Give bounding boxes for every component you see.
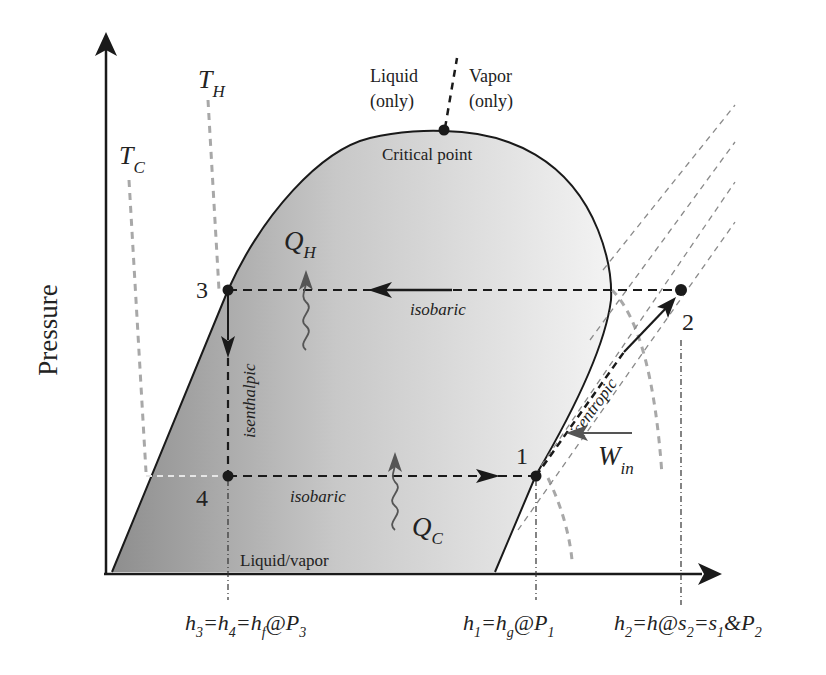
isotherm-th xyxy=(208,100,219,290)
refrigeration-ph-diagram: Pressure 3 4 1 2 Liquid (only) Vapor (on… xyxy=(0,0,826,675)
state-point-2 xyxy=(675,284,687,296)
state-label-4: 4 xyxy=(196,485,208,511)
state-label-1: 1 xyxy=(516,443,528,469)
h1-label: h1=hg@P1 xyxy=(463,610,555,640)
state-label-3: 3 xyxy=(196,277,208,303)
tc-label: TC xyxy=(119,141,145,177)
saturation-dome xyxy=(112,131,611,572)
isentrope-1 xyxy=(603,105,735,270)
vapor-only-label-1: Vapor xyxy=(469,66,512,86)
liquid-only-label-1: Liquid xyxy=(370,66,418,86)
critical-point xyxy=(439,125,450,136)
state-point-3 xyxy=(223,285,234,296)
y-axis-label: Pressure xyxy=(33,284,63,375)
liquid-vapor-label: Liquid/vapor xyxy=(240,551,329,570)
state-point-1 xyxy=(531,471,542,482)
state-point-4 xyxy=(223,471,234,482)
vapor-only-label-2: (only) xyxy=(469,91,513,112)
state-label-2: 2 xyxy=(682,309,694,335)
process-1-2-solid xyxy=(624,306,668,352)
isobaric-label-bottom: isobaric xyxy=(290,487,346,506)
win-label: Win xyxy=(598,441,634,478)
isobaric-label-top: isobaric xyxy=(410,300,466,319)
th-label: TH xyxy=(198,65,226,101)
liquid-only-label-2: (only) xyxy=(370,91,414,112)
isotherm-tc xyxy=(129,180,146,472)
isotherm-tc-superheated xyxy=(548,478,572,560)
liquid-vapor-boundary xyxy=(445,58,457,128)
h2-label: h2=h@s2=s1&P2 xyxy=(614,610,762,640)
h34-label: h3=h4=hf@P3 xyxy=(185,610,306,640)
isenthalpic-label: isenthalpic xyxy=(240,363,259,438)
critical-point-label: Critical point xyxy=(382,145,472,164)
